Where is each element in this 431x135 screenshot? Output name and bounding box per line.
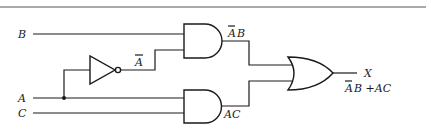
not-output-label: A: [134, 55, 143, 69]
or-gate: [288, 57, 333, 90]
wire-and2-to-or: [221, 81, 292, 106]
and-gate-lower: [184, 90, 222, 123]
input-a-label: A: [17, 92, 26, 105]
svg-text:B: B: [236, 27, 245, 40]
input-b-label: B: [17, 28, 26, 41]
wire-a-to-inverter: [64, 70, 90, 98]
and2-output-label: AC: [223, 108, 241, 121]
svg-text:A: A: [134, 56, 143, 69]
svg-text:B +AC: B +AC: [353, 82, 392, 95]
svg-text:A: A: [227, 27, 236, 40]
output-x-label: X: [363, 67, 373, 80]
inverter-bubble: [115, 67, 120, 72]
not-gate: [90, 56, 115, 84]
wire-a-bar: [121, 50, 184, 70]
and-gate-upper: [184, 24, 222, 58]
input-c-label: C: [18, 107, 27, 120]
svg-text:A: A: [344, 82, 353, 95]
and1-output-label: A B: [227, 26, 245, 40]
logic-circuit-diagram: B A C A A B AC X A B +AC: [0, 0, 431, 135]
wire-and1-to-or: [222, 41, 292, 65]
output-expression: A B +AC: [344, 81, 392, 95]
